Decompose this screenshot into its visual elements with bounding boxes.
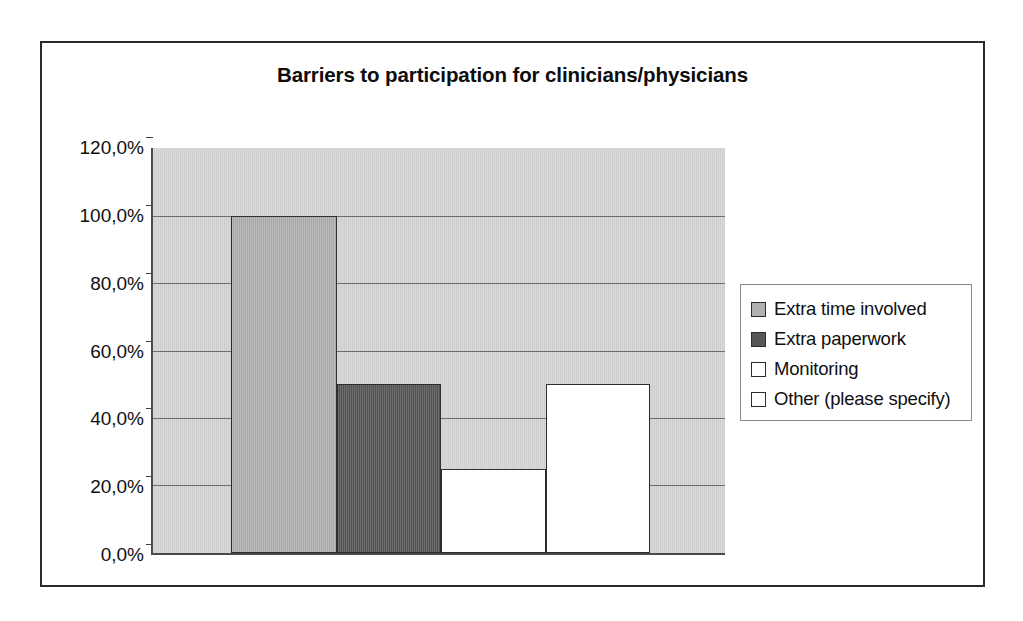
bar-extra-paperwork[interactable] [337,384,441,553]
legend-swatch-icon [751,302,766,317]
y-tick-label-0: 0,0% [101,544,144,566]
bar-monitoring[interactable] [441,469,546,553]
legend-item-extra-time-involved[interactable]: Extra time involved [751,294,971,324]
y-tick-label-100: 100,0% [80,205,144,227]
legend-item-other-please-specify[interactable]: Other (please specify) [751,384,971,414]
y-tick-label-60: 60,0% [90,341,144,363]
legend-swatch-icon [751,362,766,377]
y-axis: 120,0% 100,0% 80,0% 60,0% 40,0% 20,0% 0,… [56,148,144,555]
chart-title: Barriers to participation for clinicians… [42,63,983,87]
plot-area [151,148,725,555]
chart-frame: Barriers to participation for clinicians… [40,41,985,587]
bar-other-please-specify[interactable] [546,384,650,553]
y-tick-mark-120 [146,137,153,138]
legend-item-monitoring[interactable]: Monitoring [751,354,971,384]
legend-swatch-icon [751,332,766,347]
chart-legend: Extra time involved Extra paperwork Moni… [740,284,972,421]
bar-texture [338,385,440,552]
y-tick-label-80: 80,0% [90,273,144,295]
legend-swatch-icon [751,392,766,407]
legend-label: Other (please specify) [774,388,951,410]
legend-label: Monitoring [774,358,858,380]
bar-texture [232,217,336,553]
y-tick-label-120: 120,0% [80,137,144,159]
y-tick-label-40: 40,0% [90,408,144,430]
y-tick-label-20: 20,0% [90,476,144,498]
bar-extra-time-involved[interactable] [231,216,337,554]
legend-item-extra-paperwork[interactable]: Extra paperwork [751,324,971,354]
legend-label: Extra time involved [774,298,926,320]
legend-label: Extra paperwork [774,328,906,350]
